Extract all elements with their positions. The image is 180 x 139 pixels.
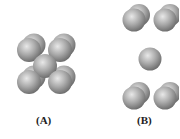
figure-b-spheres xyxy=(123,4,180,110)
sphere xyxy=(48,70,72,94)
center-sphere xyxy=(139,48,162,71)
figure-b-label: (B) xyxy=(137,114,152,126)
sphere xyxy=(154,87,177,110)
sphere xyxy=(123,87,146,110)
sphere xyxy=(154,9,177,32)
crystal-structure-diagram xyxy=(0,0,179,139)
sphere xyxy=(17,70,41,94)
sphere xyxy=(123,9,146,32)
figure-a-spheres xyxy=(17,34,76,95)
figure-a-label: (A) xyxy=(36,114,51,126)
